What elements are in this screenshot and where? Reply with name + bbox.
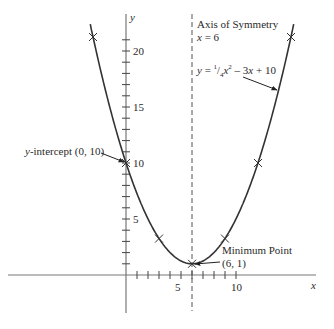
x-tick-5: 5 [175, 281, 181, 293]
x-marker-icon [155, 235, 163, 243]
yintercept-arrow [101, 153, 124, 162]
x-tick-10: 10 [231, 281, 242, 293]
y-tick-15: 15 [133, 101, 144, 113]
y-tick-5: 5 [133, 213, 139, 225]
y-tick-20: 20 [133, 45, 144, 57]
eq-mid: – 3 [232, 64, 249, 76]
y-axis-label: y [130, 11, 135, 23]
x-marker-icon [254, 159, 262, 167]
minimum-point-title: Minimum Point [222, 244, 292, 256]
y-intercept-label: y-intercept (0, 10) [25, 145, 104, 157]
axis-of-symmetry-title: Axis of Symmetry [197, 18, 278, 30]
x-marker-icon [221, 235, 229, 243]
parabola-plot [0, 0, 334, 329]
eq-eq: = [202, 64, 214, 76]
y-tick-10: 10 [133, 157, 144, 169]
axis-eq-rest: = 6 [202, 31, 219, 43]
minimum-point-coord: (6, 1) [222, 257, 246, 269]
axis-of-symmetry-equation: x = 6 [197, 31, 219, 43]
x-axis-label: x [311, 279, 316, 291]
eq-end: + 10 [253, 64, 276, 76]
function-equation: y = 1/4x2 – 3x + 10 [197, 61, 276, 81]
yint-text: -intercept (0, 10) [30, 145, 104, 157]
